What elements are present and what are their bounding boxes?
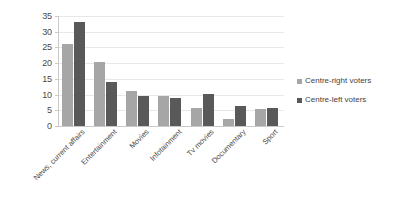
legend-label: Centre-left voters <box>305 95 366 105</box>
legend-swatch-icon <box>297 98 302 103</box>
x-axis-line <box>59 126 284 127</box>
plot-area <box>59 16 284 126</box>
x-axis-label: Infotainment <box>148 128 184 164</box>
y-tick-label: 15 <box>28 75 52 84</box>
bar-centre-left <box>138 96 149 126</box>
y-tick-label: 5 <box>28 106 52 115</box>
bar-group <box>91 16 123 126</box>
bar-group <box>220 16 252 126</box>
y-tick-label: 0 <box>28 122 52 131</box>
x-axis-label: Sport <box>261 128 280 147</box>
legend-item-centre-left: Centre-left voters <box>297 95 397 105</box>
bar-centre-right <box>158 96 169 126</box>
bar-chart: 35 30 25 20 15 10 5 0 News, current affa… <box>0 0 400 205</box>
legend-swatch-icon <box>297 79 302 84</box>
legend-item-centre-right: Centre-right voters <box>297 76 397 86</box>
y-tick-label: 30 <box>28 28 52 37</box>
bar-centre-left <box>106 82 117 126</box>
y-tick-label: 35 <box>28 12 52 21</box>
bar-centre-left <box>203 94 214 126</box>
bar-centre-right <box>223 119 234 126</box>
chart-legend: Centre-right voters Centre-left voters <box>297 76 397 114</box>
y-tick-label: 10 <box>28 91 52 100</box>
x-axis-labels: News, current affairsEntertainmentMovies… <box>59 128 339 203</box>
bar-centre-right <box>255 109 266 126</box>
bar-group <box>188 16 220 126</box>
bar-centre-right <box>94 62 105 126</box>
bar-group <box>252 16 284 126</box>
bar-centre-right <box>62 44 73 126</box>
bar-centre-right <box>126 91 137 126</box>
x-axis-label: Movies <box>129 128 152 151</box>
bar-group <box>155 16 187 126</box>
legend-label: Centre-right voters <box>305 76 371 86</box>
x-axis-label: Tv movies <box>185 128 216 159</box>
bar-group <box>59 16 91 126</box>
y-tick-label: 20 <box>28 59 52 68</box>
bar-centre-left <box>235 106 246 126</box>
bar-centre-left <box>170 98 181 126</box>
y-tick-label: 25 <box>28 43 52 52</box>
bar-centre-left <box>267 108 278 126</box>
bar-centre-left <box>74 22 85 126</box>
bar-centre-right <box>191 108 202 126</box>
bar-group <box>123 16 155 126</box>
